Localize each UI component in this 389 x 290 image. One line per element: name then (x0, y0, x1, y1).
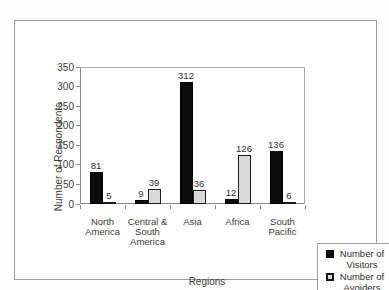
legend-marker-number-of-avoiders-icon (326, 273, 334, 281)
legend-label: Number of Avoiders (337, 271, 387, 290)
legend-marker-number-of-visitors-icon (326, 250, 334, 258)
plot-area (80, 67, 305, 204)
chart-page: Number of Respondents Regions Number of … (0, 0, 389, 290)
legend-item-number-of-visitors: Number of Visitors (326, 248, 387, 270)
legend-item-number-of-avoiders: Number of Avoiders (326, 271, 387, 290)
x-axis-title: Regions (157, 276, 257, 287)
legend-label: Number of Visitors (337, 248, 387, 270)
y-axis-title: Number of Respondents (53, 87, 65, 227)
legend: Number of VisitorsNumber of Avoiders (317, 243, 389, 290)
